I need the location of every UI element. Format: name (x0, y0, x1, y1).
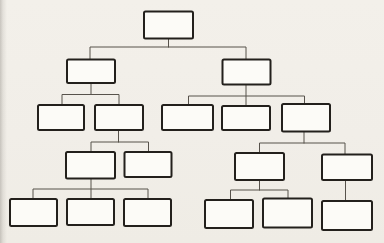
scanned-page (0, 0, 384, 243)
tree-connector-left2-bar (62, 95, 119, 106)
tree-node-n6-level-3 (162, 105, 213, 130)
tree-node-n2-level-2 (67, 60, 115, 84)
tree-node-n7-level-3 (222, 106, 270, 130)
tree-node-n5-level-3 (95, 105, 143, 130)
tree-node-n4-level-3 (38, 105, 84, 130)
tree-node-n10-level-4 (125, 152, 172, 177)
tree-node-n17-level-5 (263, 199, 312, 228)
tree-node-n16-level-5 (205, 200, 253, 228)
tree-connector-left3-bar (91, 142, 149, 152)
tree-diagram (0, 0, 384, 243)
tree-node-n13-level-5 (10, 199, 57, 226)
tree-node-n18-level-5 (322, 201, 372, 230)
tree-node-n15-level-5 (124, 199, 171, 226)
tree-node-n9-level-4 (66, 152, 115, 179)
tree-node-n3-level-2 (223, 60, 271, 85)
tree-connector-root-bar (90, 47, 246, 60)
tree-node-n8-level-3 (282, 104, 330, 132)
tree-node-n12-level-4 (322, 155, 372, 181)
tree-node-n14-level-5 (67, 199, 114, 225)
tree-node-n1-level-1 (144, 12, 193, 39)
tree-node-n11-level-4 (235, 153, 284, 180)
